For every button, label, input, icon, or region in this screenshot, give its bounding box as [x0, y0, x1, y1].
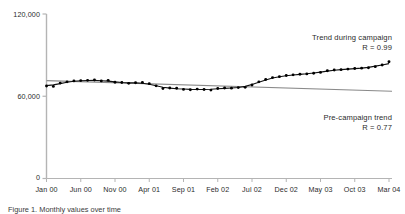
data-point: [52, 85, 55, 88]
data-point: [333, 69, 336, 72]
data-point: [216, 87, 219, 90]
data-point: [189, 88, 192, 91]
annotation-precampaign-r: R = 0.77: [242, 123, 392, 132]
data-point: [326, 69, 329, 72]
data-point-markers: [45, 60, 390, 91]
data-point: [66, 80, 69, 83]
data-point: [182, 88, 185, 91]
data-point: [203, 88, 206, 91]
xtick-label-10: Mar 04: [368, 185, 405, 194]
data-point: [155, 84, 158, 87]
data-point: [319, 71, 322, 74]
data-point: [127, 82, 130, 85]
annotation-campaign-title: Trend during campaign: [242, 33, 392, 42]
annotation-campaign-r: R = 0.99: [242, 43, 392, 52]
data-point: [86, 79, 89, 82]
data-point: [175, 87, 178, 90]
data-point: [367, 66, 370, 69]
data-point: [196, 88, 199, 91]
data-point: [79, 79, 82, 82]
data-point: [251, 84, 254, 87]
data-point: [223, 87, 226, 90]
data-point: [141, 81, 144, 84]
data-point: [168, 87, 171, 90]
data-point: [107, 79, 110, 82]
figure-caption: Figure 1. Monthly values over time: [8, 205, 121, 214]
data-point: [340, 68, 343, 71]
data-point: [299, 73, 302, 76]
data-point: [388, 60, 391, 63]
data-point: [374, 65, 377, 68]
data-point: [264, 78, 267, 81]
data-point: [230, 87, 233, 90]
annotation-precampaign-title: Pre-campaign trend: [242, 113, 392, 122]
data-point: [120, 81, 123, 84]
data-point: [59, 82, 62, 85]
data-point: [162, 87, 165, 90]
data-point: [278, 75, 281, 78]
ytick-label-120000: 120,000: [0, 10, 40, 19]
ytick-label-60000: 60,000: [0, 92, 40, 101]
data-point: [148, 82, 151, 85]
trend-precampaign: [47, 81, 393, 92]
data-point: [353, 67, 356, 70]
data-point: [93, 79, 96, 82]
data-point: [381, 64, 384, 67]
data-point: [244, 86, 247, 89]
data-point: [45, 85, 48, 88]
data-point: [72, 79, 75, 82]
data-point: [209, 89, 212, 92]
data-point: [271, 76, 274, 79]
data-point: [114, 81, 117, 84]
data-point: [257, 80, 260, 83]
data-point: [292, 73, 295, 76]
data-point: [312, 72, 315, 75]
ytick-label-0: 0: [0, 173, 40, 182]
data-point: [346, 68, 349, 71]
data-point: [360, 67, 363, 70]
data-point: [237, 86, 240, 89]
data-point: [285, 74, 288, 77]
data-point: [134, 81, 137, 84]
data-point: [100, 79, 103, 82]
data-point: [305, 72, 308, 75]
